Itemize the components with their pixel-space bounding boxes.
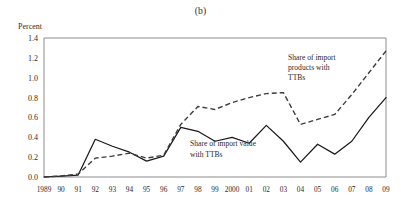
annotation-value-line1: Share of import value: [190, 139, 257, 148]
x-tick-labels: 1989909192939495969798992000010203040506…: [37, 185, 390, 194]
y-tick-label: 0.4: [28, 133, 38, 142]
x-tick-label: 2000: [225, 185, 240, 194]
x-tick-label: 08: [365, 185, 373, 194]
y-tick-label: 1.4: [28, 34, 38, 43]
y-tick-label: 1.2: [28, 54, 38, 63]
annotation-products-line1: Share of import: [288, 53, 337, 62]
y-tick-label: 0.6: [28, 113, 38, 122]
y-tick-label: 0.0: [28, 173, 38, 182]
x-tick-label: 06: [331, 185, 339, 194]
x-tick-label: 05: [314, 185, 322, 194]
y-tick-label: 1.0: [28, 74, 38, 83]
x-tick-label: 09: [382, 185, 390, 194]
x-tick-label: 96: [160, 185, 168, 194]
x-tick-label: 02: [263, 185, 271, 194]
x-tick-label: 03: [280, 185, 288, 194]
annotation-import-value: Share of import value with TTBs: [190, 139, 257, 159]
x-tick-label: 04: [297, 185, 305, 194]
x-tick-label: 98: [194, 185, 202, 194]
x-tick-label: 93: [109, 185, 117, 194]
annotation-import-products: Share of import products with TTBs: [288, 53, 337, 82]
x-tick-label: 07: [348, 185, 356, 194]
x-tick-label: 94: [126, 185, 134, 194]
x-tick-label: 91: [75, 185, 83, 194]
y-tick-labels: 0.00.20.40.60.81.01.21.4: [28, 34, 38, 182]
chart-figure: (b) Percent 0.00.20.40.60.81.01.21.4 198…: [0, 0, 401, 203]
x-tick-label: 99: [211, 185, 219, 194]
x-tick-label: 97: [177, 185, 185, 194]
annotation-products-line2: products with: [288, 63, 330, 72]
x-tick-label: 1989: [37, 185, 52, 194]
plot-canvas: 0.00.20.40.60.81.01.21.4 198990919293949…: [0, 0, 401, 203]
annotation-products-line3: TTBs: [288, 73, 305, 82]
y-tick-label: 0.2: [28, 153, 38, 162]
x-tick-label: 01: [246, 185, 254, 194]
annotation-value-line2: with TTBs: [190, 150, 223, 159]
x-tick-label: 92: [92, 185, 100, 194]
y-tick-label: 0.8: [28, 94, 38, 103]
x-tick-label: 90: [57, 185, 65, 194]
x-tick-label: 95: [143, 185, 151, 194]
